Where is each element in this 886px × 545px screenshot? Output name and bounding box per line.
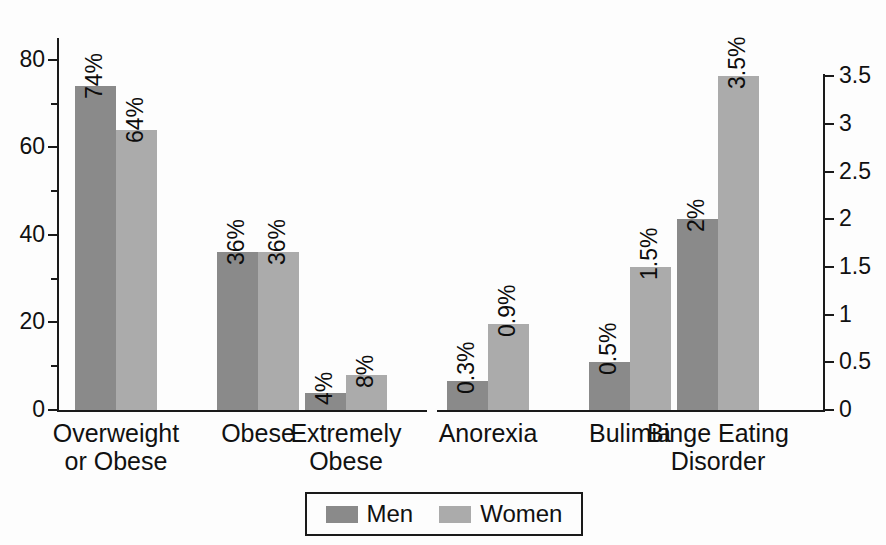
bar-value-label-women-1: 36% <box>266 219 289 265</box>
left-minor-tick-50 <box>51 190 57 192</box>
bar-women-1 <box>258 252 299 410</box>
x-axis-baseline-right-panel <box>437 410 825 412</box>
bar-women-0 <box>116 130 157 410</box>
chart-container: 020406080 00.511.522.533.5 74%64%36%36%4… <box>0 0 886 545</box>
x-axis-baseline-left-panel <box>57 410 427 412</box>
left-minor-tick-10 <box>51 365 57 367</box>
left-tick-label-40: 40 <box>19 223 45 246</box>
bar-value-label-women-3: 0.9% <box>496 285 519 337</box>
legend-label-men: Men <box>367 502 414 526</box>
bar-women-3 <box>488 324 529 410</box>
right-tick-2 <box>825 218 834 220</box>
left-tick-60 <box>48 146 57 148</box>
bar-men-5 <box>677 219 718 410</box>
right-tick-label-3: 3 <box>839 112 852 135</box>
right-tick-label-2: 2 <box>839 207 852 230</box>
right-tick-3 <box>825 123 834 125</box>
left-tick-label-60: 60 <box>19 135 45 158</box>
bar-men-0 <box>75 86 116 410</box>
bar-men-1 <box>217 252 258 410</box>
left-minor-tick-30 <box>51 278 57 280</box>
bar-value-label-women-2: 8% <box>354 355 377 388</box>
bar-women-5 <box>718 76 759 410</box>
left-tick-0 <box>48 409 57 411</box>
right-tick-1 <box>825 314 834 316</box>
legend-label-women: Women <box>480 502 562 526</box>
right-tick-2.5 <box>825 171 834 173</box>
chart-legend: Men Women <box>305 492 583 536</box>
right-tick-0 <box>825 409 834 411</box>
bar-value-label-men-4: 0.5% <box>597 323 620 375</box>
left-tick-label-20: 20 <box>19 310 45 333</box>
left-minor-tick-70 <box>51 103 57 105</box>
right-tick-label-2.5: 2.5 <box>839 160 871 183</box>
right-tick-label-3.5: 3.5 <box>839 64 871 87</box>
category-label-5: Binge Eating Disorder <box>618 419 818 475</box>
left-tick-80 <box>48 59 57 61</box>
left-tick-label-0: 0 <box>32 398 45 421</box>
legend-swatch-women <box>439 506 471 523</box>
legend-item-women: Women <box>439 502 562 526</box>
left-tick-label-80: 80 <box>19 48 45 71</box>
right-tick-label-1: 1 <box>839 303 852 326</box>
right-tick-3.5 <box>825 75 834 77</box>
left-tick-20 <box>48 321 57 323</box>
bar-value-label-men-3: 0.3% <box>455 342 478 394</box>
left-tick-40 <box>48 234 57 236</box>
right-tick-label-0: 0 <box>839 398 852 421</box>
legend-swatch-men <box>326 506 358 523</box>
bar-value-label-men-2: 4% <box>313 372 336 405</box>
legend-item-men: Men <box>326 502 414 526</box>
left-y-axis <box>57 38 59 412</box>
right-tick-label-0.5: 0.5 <box>839 350 871 373</box>
bar-value-label-men-0: 74% <box>83 53 106 99</box>
bar-value-label-men-5: 2% <box>685 199 708 232</box>
bar-value-label-women-4: 1.5% <box>638 227 661 279</box>
bar-women-4 <box>630 267 671 410</box>
bar-value-label-women-5: 3.5% <box>726 37 749 89</box>
bar-value-label-women-0: 64% <box>124 97 147 143</box>
right-tick-0.5 <box>825 361 834 363</box>
right-tick-1.5 <box>825 266 834 268</box>
bar-value-label-men-1: 36% <box>225 219 248 265</box>
plot-area: 020406080 00.511.522.533.5 74%64%36%36%4… <box>57 38 825 412</box>
right-tick-label-1.5: 1.5 <box>839 255 871 278</box>
